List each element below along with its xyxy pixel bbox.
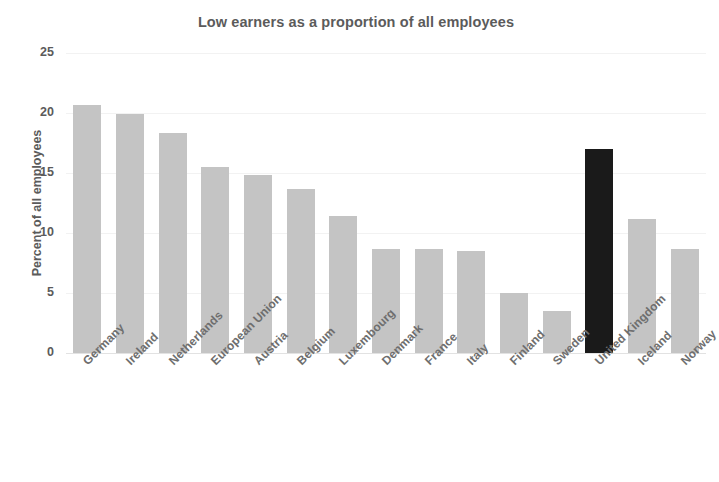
y-axis-title: Percent of all employees: [30, 103, 44, 303]
y-tick-label: 5: [10, 285, 54, 299]
y-tick-label: 10: [10, 225, 54, 239]
bar[interactable]: [671, 249, 699, 353]
y-tick-label: 20: [10, 105, 54, 119]
gridline: [66, 53, 706, 54]
bar[interactable]: [73, 105, 101, 353]
y-tick-label: 0: [10, 345, 54, 359]
bar[interactable]: [116, 114, 144, 353]
chart-title: Low earners as a proportion of all emplo…: [0, 14, 712, 30]
bar[interactable]: [159, 133, 187, 353]
y-tick-label: 25: [10, 45, 54, 59]
bar[interactable]: [457, 251, 485, 353]
bar[interactable]: [287, 189, 315, 353]
gridline: [66, 113, 706, 114]
y-tick-label: 15: [10, 165, 54, 179]
bar[interactable]: [585, 149, 613, 353]
